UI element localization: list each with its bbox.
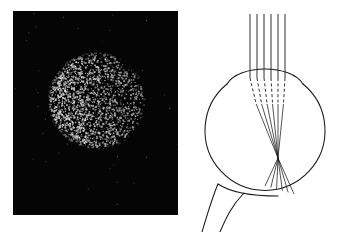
- cornea-dashed-ray-3: [264, 78, 267, 104]
- refracted-rays-group: [256, 104, 294, 194]
- diverging-ray-6: [265, 158, 278, 186]
- cornea-dashed-rays-group: [250, 78, 285, 104]
- eye-outline-group: [202, 69, 325, 232]
- fundus-photograph-panel: [13, 11, 178, 215]
- optic-nerve-upper-edge: [202, 184, 218, 232]
- cornea-dashed-ray-6: [283, 78, 285, 104]
- cornea-dashed-ray-2: [257, 78, 262, 104]
- incident-rays-group: [250, 14, 285, 78]
- converging-ray-3: [267, 104, 278, 158]
- speckled-disc-image: [13, 11, 178, 215]
- eyeball-globe-outline: [205, 84, 325, 190]
- eye-ray-diagram-panel: [182, 0, 342, 232]
- cornea-dome-arc: [227, 69, 303, 84]
- cornea-dashed-ray-4: [271, 78, 273, 104]
- cornea-dashed-ray-1: [250, 78, 256, 104]
- eye-diagram-svg: [182, 0, 342, 232]
- converging-ray-1: [256, 104, 278, 158]
- optic-nerve-lower-edge: [220, 193, 244, 232]
- figure-root: Scattered-light fundus photograph and sc…: [0, 0, 342, 232]
- diverging-ray-2: [278, 158, 288, 192]
- converging-ray-6: [278, 104, 283, 158]
